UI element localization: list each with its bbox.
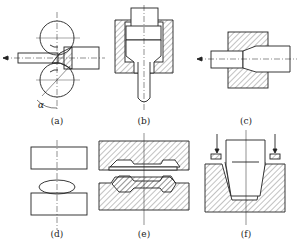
caption-f: (f) (231, 229, 261, 239)
caption-a: (a) (42, 116, 72, 126)
caption-e: (e) (129, 229, 159, 239)
panel-b-extrusion (115, 5, 173, 110)
panel-d-free-forging (31, 140, 87, 230)
caption-d: (d) (42, 229, 72, 239)
angle-alpha-label: α (26, 100, 56, 110)
caption-b: (b) (129, 116, 159, 126)
panel-f-deep-drawing (205, 130, 285, 225)
panel-a-rolling (3, 12, 105, 110)
panel-e-die-forging (99, 133, 189, 225)
panel-c-drawing (197, 32, 297, 88)
caption-c: (c) (231, 116, 261, 126)
